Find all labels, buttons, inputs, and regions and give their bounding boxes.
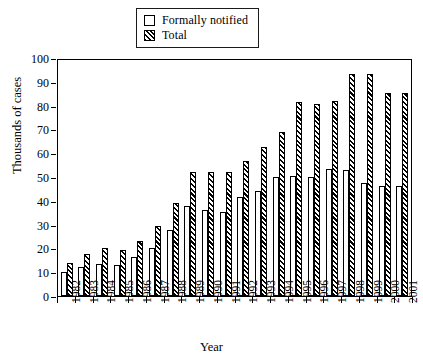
bar-group (393, 60, 411, 296)
x-axis-tick-label: 1998 (354, 263, 366, 303)
x-axis-label: Year (0, 340, 423, 355)
y-axis-tick-mark (51, 249, 56, 250)
bar-group (305, 60, 323, 296)
x-axis-tick-label: 1990 (212, 263, 224, 303)
bar-group (129, 60, 147, 296)
chart-legend: Formally notified Total (136, 8, 259, 48)
y-axis-tick-label: 80 (0, 101, 57, 113)
y-axis-tick-mark (51, 297, 56, 298)
bar-group (199, 60, 217, 296)
y-axis-tick-mark (51, 273, 56, 274)
x-axis-tick-label: 1991 (230, 263, 242, 303)
y-axis-tick-mark (51, 202, 56, 203)
bar-group (358, 60, 376, 296)
legend-label-formally-notified: Formally notified (162, 14, 248, 27)
bar-group (76, 60, 94, 296)
x-axis-tick-label: 1984 (105, 263, 117, 303)
y-axis-tick-mark (51, 59, 56, 60)
x-axis-tick-label: 2000 (389, 263, 401, 303)
x-axis-tick-label: 1995 (301, 263, 313, 303)
y-axis-tick-label: 0 (0, 291, 57, 303)
y-axis-tick-label: 90 (0, 77, 57, 89)
bar-group (270, 60, 288, 296)
y-axis-tick-label: 60 (0, 148, 57, 160)
y-axis-tick-mark (51, 226, 56, 227)
legend-item-total: Total (144, 28, 248, 43)
y-axis-tick-mark (51, 154, 56, 155)
y-axis-tick-mark (51, 178, 56, 179)
x-axis-tick-label: 2001 (407, 263, 419, 303)
x-axis-tick-mark (57, 297, 58, 303)
bar-group (58, 60, 76, 296)
y-axis-tick-label: 70 (0, 124, 57, 136)
plot-area (57, 59, 412, 297)
x-axis-tick-label: 1994 (283, 263, 295, 303)
y-axis-tick-label: 20 (0, 243, 57, 255)
x-axis-tick-label: 1997 (336, 263, 348, 303)
x-axis-tick-label: 1996 (318, 263, 330, 303)
bar-group (93, 60, 111, 296)
x-axis-tick-label: 1988 (176, 263, 188, 303)
legend-item-formally-notified: Formally notified (144, 13, 248, 28)
y-axis-tick-label: 50 (0, 172, 57, 184)
x-axis-tick-label: 1993 (265, 263, 277, 303)
legend-swatch-white-square-icon (144, 15, 155, 26)
bar-group (235, 60, 253, 296)
bar-groups (58, 60, 411, 296)
bar-group (288, 60, 306, 296)
y-axis-tick-label: 30 (0, 220, 57, 232)
legend-label-total: Total (162, 29, 187, 42)
bar-group (376, 60, 394, 296)
x-axis-tick-label: 1985 (123, 263, 135, 303)
x-axis-tick-label: 1999 (372, 263, 384, 303)
bar-group (252, 60, 270, 296)
bar-group (182, 60, 200, 296)
bar-group (164, 60, 182, 296)
x-axis-tick-label: 1982 (70, 263, 82, 303)
x-axis-tick-label: 1989 (194, 263, 206, 303)
y-axis-tick-label: 100 (0, 53, 57, 65)
y-axis-tick-mark (51, 130, 56, 131)
bar-chart-figure: Formally notified Total Thousands of cas… (0, 0, 423, 360)
bar-group (111, 60, 129, 296)
bar-group (217, 60, 235, 296)
bar-group (323, 60, 341, 296)
y-axis-tick-label: 40 (0, 196, 57, 208)
bar-group (146, 60, 164, 296)
bar-group (341, 60, 359, 296)
x-axis-tick-label: 1983 (88, 263, 100, 303)
y-axis-tick-mark (51, 83, 56, 84)
x-axis-tick-label: 1986 (141, 263, 153, 303)
y-axis-tick-label: 10 (0, 267, 57, 279)
x-axis-tick-label: 1992 (247, 263, 259, 303)
x-axis-tick-label: 1987 (159, 263, 171, 303)
legend-swatch-hatched-square-icon (144, 30, 155, 41)
y-axis-tick-mark (51, 107, 56, 108)
